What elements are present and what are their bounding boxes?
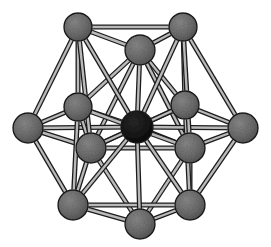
shell-atom: [171, 91, 199, 119]
atom-sphere: [228, 113, 258, 143]
cluster-diagram-canvas: [0, 0, 271, 247]
center-atom: [121, 111, 153, 143]
atom-sphere: [64, 93, 92, 121]
atom-sphere: [64, 13, 92, 41]
shell-atom: [125, 35, 155, 65]
shell-atom: [228, 113, 258, 143]
shell-atom: [13, 113, 43, 143]
atom-sphere: [169, 13, 197, 41]
shell-atom: [58, 190, 88, 220]
shell-atom: [64, 13, 92, 41]
atom-sphere: [76, 133, 106, 163]
atom-sphere: [58, 190, 88, 220]
atom-sphere: [125, 209, 155, 239]
shell-atom: [169, 13, 197, 41]
shell-atom: [76, 133, 106, 163]
atom-sphere: [175, 190, 205, 220]
shell-atom: [125, 209, 155, 239]
shell-atom: [64, 93, 92, 121]
atom-sphere: [125, 35, 155, 65]
shell-atom: [175, 190, 205, 220]
atom-sphere: [121, 111, 153, 143]
atom-sphere: [13, 113, 43, 143]
cluster-figure: [0, 0, 271, 247]
shell-atom: [175, 133, 205, 163]
atom-sphere: [171, 91, 199, 119]
atom-sphere: [175, 133, 205, 163]
